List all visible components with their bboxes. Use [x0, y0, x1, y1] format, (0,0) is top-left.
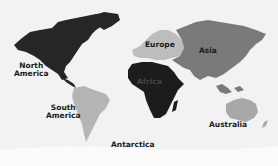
label-antarctica: Antarctica	[111, 141, 155, 149]
label-north-america: North America	[14, 62, 48, 78]
antarctica-shape	[0, 146, 278, 166]
label-africa: Africa	[137, 78, 162, 86]
label-south-america: South America	[46, 104, 80, 120]
label-asia: Asia	[199, 47, 217, 55]
label-australia: Australia	[209, 121, 247, 129]
label-south-america-line2: America	[46, 112, 80, 120]
label-europe: Europe	[145, 41, 175, 49]
label-north-america-line2: America	[14, 70, 48, 78]
